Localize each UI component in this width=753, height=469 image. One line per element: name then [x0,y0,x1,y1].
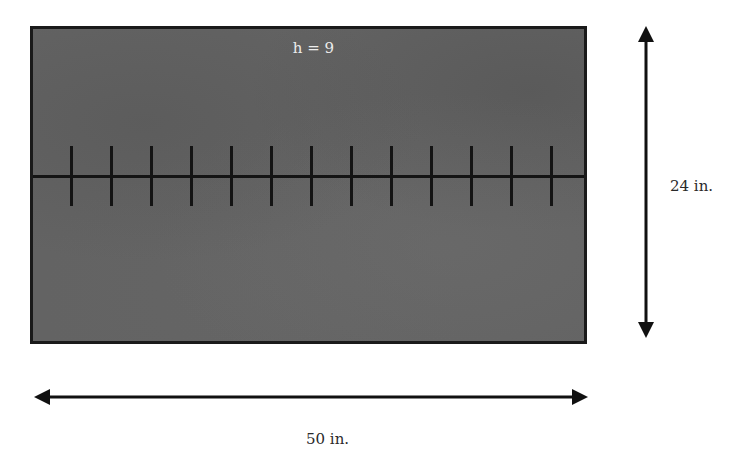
tick-mark [310,146,313,206]
height-arrow-icon [638,26,654,338]
tick-mark [390,146,393,206]
tick-mark [430,146,433,206]
h-value-label: h = 9 [33,39,584,57]
tick-mark [550,146,553,206]
tick-mark [190,146,193,206]
tick-mark [510,146,513,206]
tick-mark [150,146,153,206]
tick-mark [110,146,113,206]
width-dimension-label: 50 in. [306,430,349,448]
gray-board-rectangle: h = 9 [30,26,587,344]
tick-mark [230,146,233,206]
tick-mark [470,146,473,206]
height-dimension-label: 24 in. [670,177,713,195]
width-arrow-icon [34,389,588,405]
horizontal-center-line [33,175,584,178]
tick-mark [70,146,73,206]
tick-mark [270,146,273,206]
tick-mark [350,146,353,206]
